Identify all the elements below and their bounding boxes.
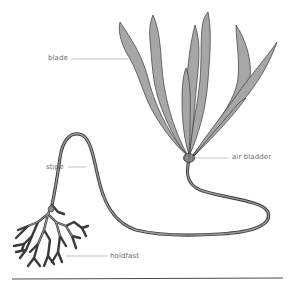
blade-inner: [182, 68, 190, 154]
holdfast: [14, 205, 88, 266]
label-stipe: stipe: [46, 163, 64, 171]
blades: [119, 12, 277, 157]
label-air-bladder: air bladder: [232, 153, 271, 161]
kelp-illustration: [0, 0, 289, 286]
label-holdfast: holdfast: [110, 252, 139, 260]
holdfast-base: [48, 206, 54, 212]
label-blade: blade: [48, 54, 68, 62]
kelp-diagram: blade stipe air bladder holdfast: [0, 0, 289, 286]
air-bladder: [184, 153, 195, 163]
stipe: [52, 134, 269, 235]
ground-line: [12, 278, 283, 279]
